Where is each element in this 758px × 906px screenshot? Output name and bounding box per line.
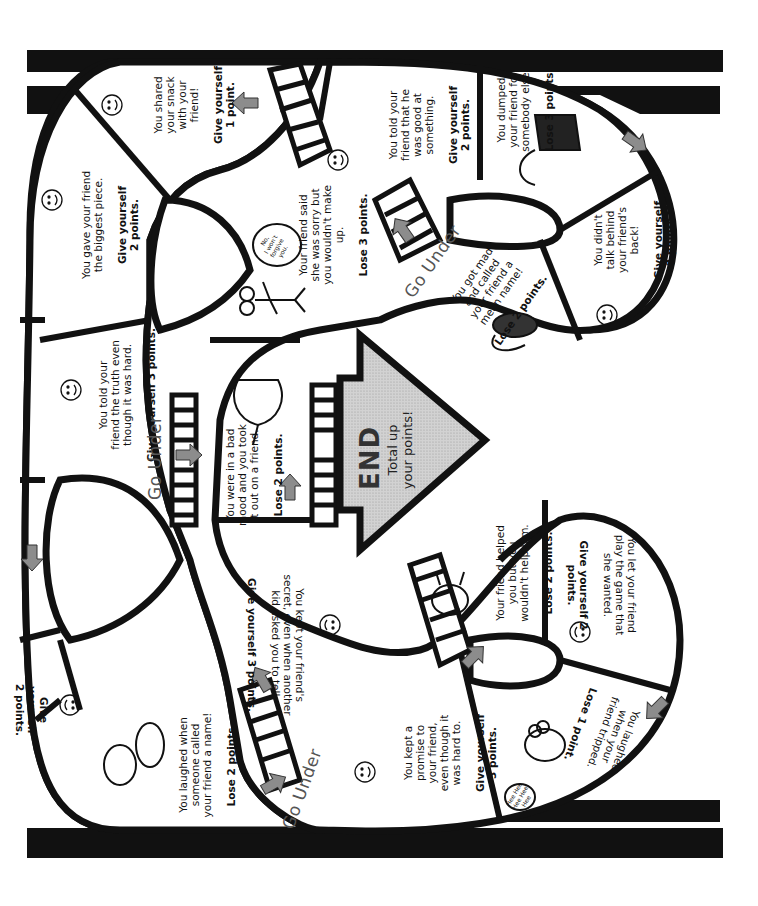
space-message: You told your friend that he was good at… <box>387 65 435 185</box>
space-message: You kept your friend's secret, even when… <box>270 560 306 730</box>
space-message: You didn't talk behind your friend's bac… <box>592 185 640 295</box>
space-message: Your friend helped you but you wouldn't … <box>494 508 530 638</box>
space-points: Lose 2 points. <box>272 410 284 540</box>
space-points: Lose 3 points. <box>357 170 369 300</box>
space-points: Give yourself 2 points. <box>447 65 471 185</box>
space-points: Give yourself 2 points. <box>14 675 50 745</box>
space-points: Give yourself 2 points. <box>116 150 140 300</box>
space-points: Give yourself 1 point. <box>212 45 236 165</box>
space-message: You kept a promise to your friend, even … <box>402 698 462 808</box>
space-points: Lose 3 points. <box>543 55 555 165</box>
space-points: Give yourself 2 points. <box>566 515 590 655</box>
go-under-label: Go Under <box>145 416 165 500</box>
space-message: You dumped your friend for somebody else… <box>495 55 531 165</box>
space-message: You let your friend play the game that s… <box>602 515 638 655</box>
space-points: Lose 2 points. <box>225 695 237 835</box>
space-message: You shared your snack with your friend! <box>152 45 200 165</box>
space-message: You gave your friend the biggest piece. <box>80 150 104 300</box>
space-message: Your friend said she was sorry but you w… <box>297 170 345 300</box>
end-title: END <box>355 426 385 490</box>
space-message: You told your friend the truth even thou… <box>97 315 133 475</box>
space-points: Give yourself 3 points. <box>474 698 498 808</box>
space-message: You laughed when someone called your fri… <box>177 695 213 835</box>
space-points: Lose 2 points. <box>542 508 554 638</box>
end-subtitle: Total up your points! <box>385 395 415 505</box>
space-points: Give yourself 2 points. <box>652 185 676 295</box>
space-message: You were in a bad mood and you took it o… <box>224 410 260 540</box>
